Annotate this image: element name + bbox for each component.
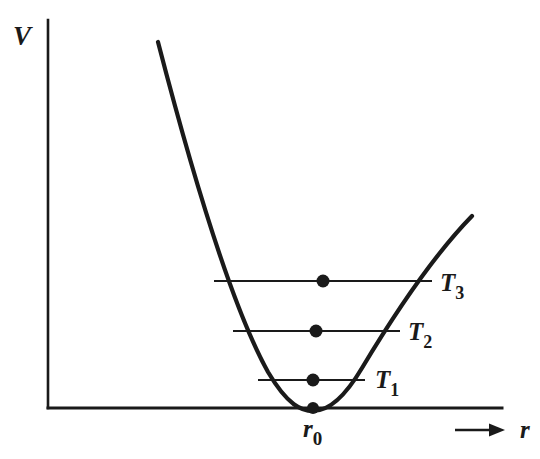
level-midpoint-dot-t3 bbox=[317, 275, 330, 288]
energy-level-label-t3-subscript: 3 bbox=[455, 283, 464, 303]
diagram-canvas: V r r0 T1 T2 T3 bbox=[0, 0, 540, 459]
equilibrium-distance-label-base: r bbox=[303, 415, 313, 442]
axis-direction-arrow-head bbox=[489, 424, 505, 437]
x-axis-label: r bbox=[520, 416, 530, 443]
level-midpoint-dot-t1 bbox=[307, 374, 320, 387]
energy-level-label-t2: T2 bbox=[408, 318, 432, 352]
y-axis-label: V bbox=[13, 21, 33, 51]
energy-level-label-t2-subscript: 2 bbox=[423, 332, 432, 352]
equilibrium-point-marker bbox=[307, 402, 319, 414]
potential-energy-diagram: V r r0 T1 T2 T3 bbox=[0, 0, 540, 459]
equilibrium-distance-label-subscript: 0 bbox=[313, 428, 323, 449]
energy-level-label-t3: T3 bbox=[440, 269, 464, 303]
energy-level-label-t1-subscript: 1 bbox=[390, 380, 399, 400]
equilibrium-distance-label: r0 bbox=[303, 415, 322, 449]
level-midpoint-dot-t2 bbox=[310, 325, 323, 338]
potential-well-curve bbox=[158, 42, 472, 411]
energy-level-label-t1: T1 bbox=[375, 366, 399, 400]
